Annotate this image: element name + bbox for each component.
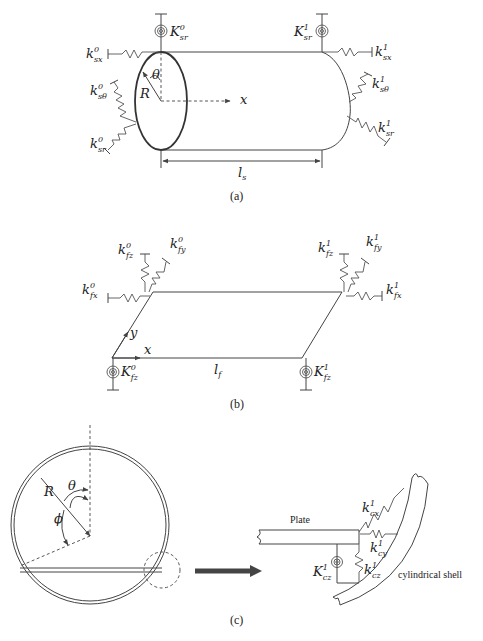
y-axis-label: y xyxy=(129,325,138,340)
panel-c-coupling: θ R ϕ Plate cylindrical shell k1cx k1cy … xyxy=(11,425,462,627)
theta-label: θ xyxy=(152,67,160,82)
k-fx0-label: k0fx xyxy=(82,281,98,300)
K-cz1-label: K1cz xyxy=(312,563,332,582)
linear-spring-icon xyxy=(322,48,372,56)
phi-label: ϕ xyxy=(54,511,63,526)
K-fz1-label: K1fz xyxy=(313,363,332,382)
length-lf-label: lf xyxy=(214,362,223,379)
k-fy1-label: k1fy xyxy=(366,233,382,252)
theta-label: θ xyxy=(68,478,76,493)
k-fz1-label: k1fz xyxy=(318,239,334,258)
radius-label: R xyxy=(139,86,150,101)
k-sr1-label: k1sr xyxy=(378,119,395,138)
linear-spring-icon xyxy=(141,254,149,292)
k-sx0-label: k0sx xyxy=(86,45,103,64)
linear-spring-icon xyxy=(348,262,365,292)
k-fx1-label: k1fx xyxy=(386,281,402,300)
k-stheta0-label: k0sθ xyxy=(90,82,107,101)
x-axis-label: x xyxy=(144,342,152,357)
zoom-arrow-icon xyxy=(250,565,262,577)
linear-spring-icon xyxy=(360,530,398,538)
x-axis-label: x xyxy=(240,92,248,107)
k-sr0-label: k0sr xyxy=(90,135,107,154)
phi-dashed-line xyxy=(20,536,90,566)
linear-spring-icon xyxy=(108,124,136,150)
panel-a-cylindrical-shell: θ R x K0sr K1sr k0sx k1sx k0sθ xyxy=(86,14,395,203)
k-cx1-label: k1cx xyxy=(362,499,379,518)
caption-c: (c) xyxy=(230,613,243,627)
linear-spring-icon xyxy=(346,292,382,300)
shell-label: cylindrical shell xyxy=(398,569,462,580)
panel-b-plate: x y lf k0fx k0fz k0fy k1fx k1fz k1fy K0f… xyxy=(82,233,402,411)
length-ls-label: ls xyxy=(238,165,246,182)
shell-right-end xyxy=(322,52,350,150)
radius-label: R xyxy=(43,484,54,499)
linear-spring-icon xyxy=(340,254,348,292)
linear-spring-icon xyxy=(108,294,150,302)
k-stheta1-label: k1sθ xyxy=(372,75,389,94)
k-sx1-label: k1sx xyxy=(375,43,392,62)
K-fz0-label: K0fz xyxy=(120,363,139,382)
linear-spring-icon xyxy=(149,262,166,292)
plate-detail xyxy=(257,530,359,544)
linear-spring-icon xyxy=(349,74,368,102)
linear-spring-icon xyxy=(355,544,363,582)
K-sr1-label: K1sr xyxy=(293,23,313,42)
K-sr0-label: K0sr xyxy=(169,23,189,42)
caption-a: (a) xyxy=(230,189,243,203)
y-axis-arrow xyxy=(112,332,128,358)
caption-b: (b) xyxy=(230,397,244,411)
k-cy1-label: k1cy xyxy=(370,539,387,558)
linear-spring-icon xyxy=(114,82,136,122)
figure-canvas: θ R x K0sr K1sr k0sx k1sx k0sθ xyxy=(0,0,483,641)
k-fz0-label: k0fz xyxy=(118,241,134,260)
plate-label: Plate xyxy=(290,514,311,525)
k-fy0-label: k0fy xyxy=(170,235,186,254)
